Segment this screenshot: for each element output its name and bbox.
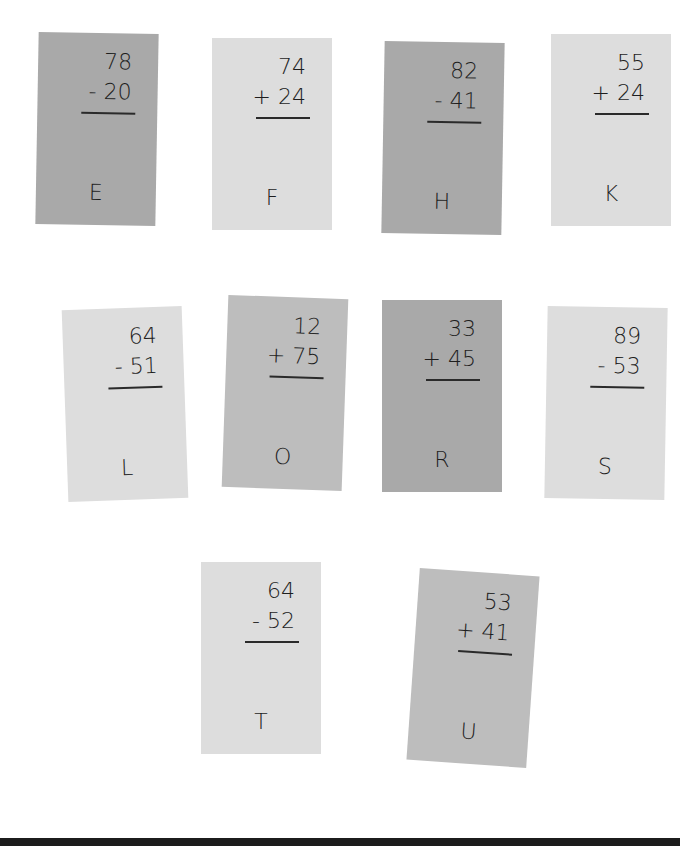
top-number: 78 bbox=[72, 47, 133, 78]
problem: 78 - 20 bbox=[71, 47, 132, 115]
answer-line bbox=[426, 379, 480, 381]
flash-card-k: 55 + 24 K bbox=[551, 34, 671, 226]
problem: 74 + 24 bbox=[246, 52, 306, 119]
flash-card-e: 78 - 20 E bbox=[35, 32, 158, 226]
top-number: 55 bbox=[585, 48, 645, 78]
answer-line bbox=[81, 112, 135, 114]
card-letter: T bbox=[201, 709, 321, 734]
card-letter: L bbox=[67, 453, 188, 482]
answer-line bbox=[256, 117, 310, 119]
card-letter: E bbox=[36, 179, 156, 206]
operation-number: + 45 bbox=[416, 344, 476, 374]
flash-card-t: 64 - 52 T bbox=[201, 562, 321, 754]
flash-card-h: 82 - 41 H bbox=[381, 41, 504, 235]
flash-card-l: 64 - 51 L bbox=[62, 306, 189, 502]
problem: 12 + 75 bbox=[260, 310, 322, 379]
problem: 64 - 52 bbox=[235, 576, 295, 643]
flash-card-u: 53 + 41 U bbox=[406, 568, 539, 768]
operation-number: - 51 bbox=[97, 351, 158, 383]
top-number: 89 bbox=[581, 321, 642, 352]
operation-number: - 53 bbox=[580, 351, 641, 382]
flash-card-s: 89 - 53 S bbox=[544, 306, 667, 500]
top-number: 33 bbox=[416, 314, 476, 344]
operation-number: + 75 bbox=[260, 340, 321, 372]
top-number: 74 bbox=[246, 52, 306, 82]
card-letter: R bbox=[382, 447, 502, 472]
answer-line bbox=[108, 386, 162, 389]
card-letter: U bbox=[408, 715, 529, 748]
problem: 82 - 41 bbox=[417, 56, 478, 124]
card-letter: K bbox=[551, 181, 671, 206]
operation-number: + 41 bbox=[449, 614, 511, 648]
answer-line bbox=[270, 375, 324, 378]
card-letter: S bbox=[545, 453, 665, 480]
operation-number: - 41 bbox=[417, 86, 478, 117]
top-number: 64 bbox=[96, 321, 157, 353]
answer-line bbox=[595, 113, 649, 115]
answer-line bbox=[427, 121, 481, 123]
operation-number: - 52 bbox=[235, 606, 295, 636]
operation-number: + 24 bbox=[246, 82, 306, 112]
operation-number: - 20 bbox=[71, 77, 132, 108]
answer-line bbox=[458, 650, 512, 655]
problem: 33 + 45 bbox=[416, 314, 476, 381]
problem: 64 - 51 bbox=[96, 321, 158, 390]
flash-card-r: 33 + 45 R bbox=[382, 300, 502, 492]
flash-card-f: 74 + 24 F bbox=[212, 38, 332, 230]
problem: 53 + 41 bbox=[448, 584, 512, 655]
page-edge-bar bbox=[0, 838, 680, 846]
card-letter: F bbox=[212, 185, 332, 210]
top-number: 82 bbox=[418, 56, 479, 87]
top-number: 12 bbox=[261, 310, 322, 342]
top-number: 64 bbox=[235, 576, 295, 606]
problem: 89 - 53 bbox=[580, 321, 641, 389]
problem: 55 + 24 bbox=[585, 48, 645, 115]
answer-line bbox=[245, 641, 299, 643]
top-number: 53 bbox=[451, 584, 513, 618]
flash-card-o: 12 + 75 O bbox=[222, 295, 349, 491]
operation-number: + 24 bbox=[585, 78, 645, 108]
card-letter: O bbox=[222, 442, 343, 471]
card-letter: H bbox=[382, 188, 502, 215]
answer-line bbox=[590, 386, 644, 388]
